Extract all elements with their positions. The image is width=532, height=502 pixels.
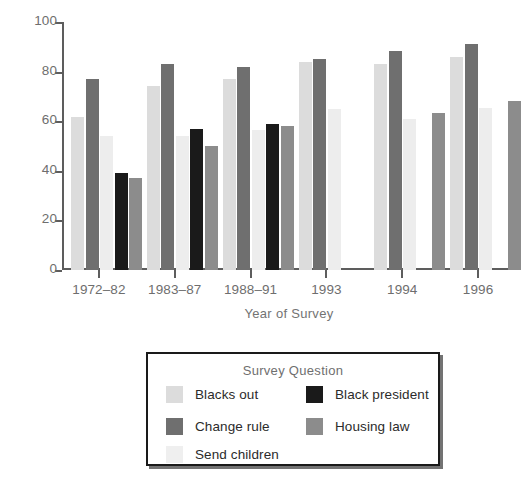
legend-label: Housing law: [335, 419, 410, 434]
x-tick-label: 1996: [463, 282, 493, 297]
y-tick-label: 100: [34, 13, 57, 28]
x-axis-title: Year of Survey: [245, 306, 334, 321]
bar: [190, 129, 203, 270]
bar-group: [441, 22, 517, 270]
legend-swatch-icon: [306, 386, 323, 403]
bar: [161, 64, 174, 270]
x-tick-mark: [325, 270, 327, 278]
y-tick-label: 60: [42, 112, 57, 127]
x-tick-mark: [477, 270, 479, 278]
legend-label: Send children: [195, 447, 279, 462]
bar: [71, 117, 84, 270]
legend-swatch-icon: [166, 446, 183, 463]
y-tick-label: 20: [42, 211, 57, 226]
y-tick-label: 80: [42, 63, 57, 78]
legend-label: Change rule: [195, 419, 270, 434]
legend-swatch-icon: [166, 386, 183, 403]
bar: [115, 173, 128, 270]
bar: [223, 79, 236, 270]
bar-chart-figure: Percentage More Favorable 020406080100 1…: [0, 0, 532, 502]
bar: [100, 136, 113, 270]
bar-group: [290, 22, 366, 270]
legend-item: Blacks out: [166, 386, 258, 403]
bar: [374, 64, 387, 270]
bar: [252, 130, 265, 270]
x-tick-label: 1994: [387, 282, 417, 297]
bar: [299, 62, 312, 270]
bar: [508, 101, 521, 270]
bar: [237, 67, 250, 270]
legend-title: Survey Question: [148, 363, 438, 378]
x-tick-label: 1988–91: [224, 282, 277, 297]
plot-area: 020406080100: [62, 22, 517, 270]
bar: [450, 57, 463, 270]
bar-group: [214, 22, 290, 270]
legend-item: Black president: [306, 386, 429, 403]
bar-group: [365, 22, 441, 270]
bar-group: [138, 22, 214, 270]
legend-label: Black president: [335, 387, 429, 402]
bar: [266, 124, 279, 270]
legend-label: Blacks out: [195, 387, 258, 402]
x-tick-mark: [250, 270, 252, 278]
x-tick-label: 1983–87: [148, 282, 201, 297]
bar: [176, 136, 189, 270]
bar: [86, 79, 99, 270]
x-tick-mark: [98, 270, 100, 278]
legend-swatch-icon: [166, 418, 183, 435]
bar: [389, 51, 402, 270]
y-tick-label: 0: [49, 261, 57, 276]
bar: [465, 44, 478, 270]
x-tick-mark: [401, 270, 403, 278]
legend-box: Survey Question Blacks outBlack presiden…: [146, 352, 440, 466]
bar: [313, 59, 326, 270]
legend-item: Send children: [166, 446, 279, 463]
x-tick-label: 1972–82: [72, 282, 125, 297]
x-tick-label: 1993: [311, 282, 341, 297]
legend-swatch-icon: [306, 418, 323, 435]
legend-item: Housing law: [306, 418, 410, 435]
bar: [328, 109, 341, 270]
legend-item: Change rule: [166, 418, 270, 435]
x-tick-mark: [174, 270, 176, 278]
bar: [403, 119, 416, 270]
bar-group: [62, 22, 138, 270]
y-tick-label: 40: [42, 162, 57, 177]
bar: [479, 108, 492, 270]
bar: [147, 86, 160, 270]
